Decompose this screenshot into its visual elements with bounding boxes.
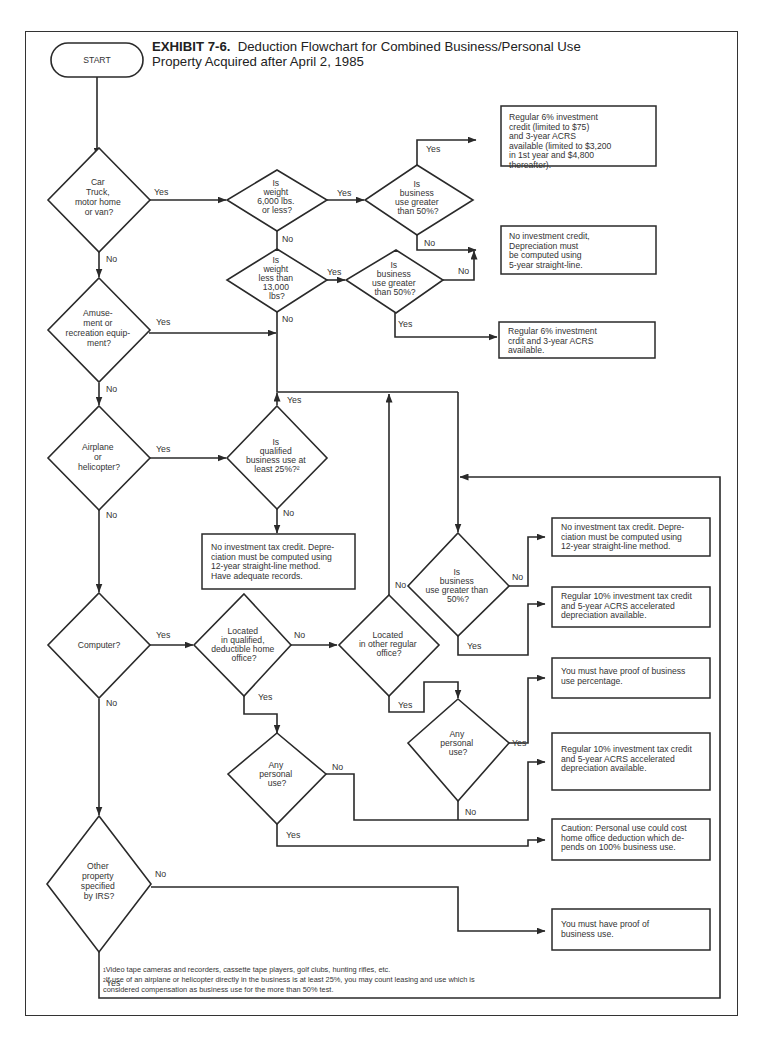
svg-text:Yes: Yes: [327, 267, 342, 277]
outcome-o1: Regular 6% investment credit (limited to…: [501, 106, 656, 170]
svg-text:Yes: Yes: [156, 444, 171, 454]
decision-personal-use-b: Any personal use?: [408, 699, 509, 801]
decision-business-over-50-b: Is business use greater than 50%?: [346, 250, 443, 313]
svg-text:No: No: [465, 807, 476, 817]
svg-text:No: No: [106, 254, 117, 264]
svg-text:Yes: Yes: [154, 187, 169, 197]
svg-text:No: No: [294, 630, 305, 640]
svg-text:Yes: Yes: [287, 395, 302, 405]
decision-computer: Computer?: [48, 593, 150, 698]
svg-text:Yes: Yes: [337, 188, 352, 198]
outcome-o9: Caution: Personal use could cost home of…: [552, 819, 710, 860]
outcome-o4: No investment tax credit. Depre- ciation…: [202, 534, 355, 589]
decision-other-property: Other property specified by IRS?: [47, 816, 151, 952]
svg-text:No: No: [332, 762, 343, 772]
decision-weight-6000: Is weight 6,000 lbs. or less?: [227, 170, 327, 231]
svg-text:No: No: [106, 384, 117, 394]
svg-text:Yes: Yes: [512, 738, 527, 748]
footnote-2-cont: considered compensation as business use …: [103, 985, 475, 995]
start-label: START: [83, 55, 111, 65]
svg-text:Yes: Yes: [426, 144, 441, 154]
decision-car: Car Truck, motor home or van?: [48, 148, 150, 252]
decision-other-office: Located in other regular office?: [339, 595, 439, 696]
svg-text:No: No: [282, 314, 293, 324]
svg-text:No investment tax credit. Depr: No investment tax credit. Depre- ciation…: [561, 522, 687, 551]
outcome-o10: You must have proof of business use.: [552, 909, 710, 950]
outcome-o3: Regular 6% investment crdit and 3-year A…: [499, 322, 655, 358]
svg-text:Caution: Personal use could co: Caution: Personal use could cost home of…: [561, 823, 689, 852]
svg-text:No: No: [106, 698, 117, 708]
svg-text:Yes: Yes: [156, 317, 171, 327]
decision-business-over-50-c: Is business use greater than 50%?: [408, 533, 509, 636]
svg-text:No: No: [395, 580, 406, 590]
decision-qualified-25: Is qualified business use at least 25%?²: [227, 406, 327, 509]
footnote-2: 2If use of an airplane or helicopter dir…: [103, 975, 475, 985]
outcome-o2: No investment credit, Depreciation must …: [501, 226, 656, 274]
svg-text:No: No: [106, 510, 117, 520]
svg-text:No: No: [282, 234, 293, 244]
footnote-1: 1Video tape cameras and recorders, casse…: [103, 965, 475, 975]
outcome-o8: Regular 10% investment tax credit and 5-…: [552, 733, 710, 790]
svg-text:No: No: [283, 508, 294, 518]
footnotes: 1Video tape cameras and recorders, casse…: [103, 965, 475, 995]
decision-airplane: Airplane or helicopter?: [48, 406, 150, 510]
svg-text:Computer?: Computer?: [78, 640, 121, 650]
svg-text:Yes: Yes: [467, 641, 482, 651]
flowchart: START: [0, 0, 762, 1052]
svg-text:Yes: Yes: [156, 630, 171, 640]
svg-text:Yes: Yes: [286, 830, 301, 840]
svg-text:No: No: [155, 869, 166, 879]
outcome-o6: Regular 10% investment tax credit and 5-…: [552, 587, 710, 627]
svg-text:No: No: [512, 572, 523, 582]
svg-text:No: No: [424, 238, 435, 248]
decision-weight-13000: Is weight less than 13,000 lbs?: [227, 249, 327, 312]
outcome-o7: You must have proof of business use perc…: [552, 658, 710, 698]
svg-text:Yes: Yes: [258, 692, 273, 702]
start-terminator: START: [51, 43, 143, 77]
svg-text:No: No: [458, 266, 469, 276]
decision-personal-use-a: Any personal use?: [228, 733, 326, 824]
decision-amusement: Amuse- ment or recreation equip- ment?: [48, 278, 150, 382]
decision-business-over-50-a: Is business use greater than 50%?: [365, 165, 473, 235]
decision-home-office: Located in qualified, deductible home of…: [194, 594, 291, 696]
svg-text:No investment credit, De: No investment credit, Depreciation must …: [509, 231, 592, 270]
svg-text:Yes: Yes: [398, 700, 413, 710]
outcome-o5: No investment tax credit. Depre- ciation…: [552, 518, 710, 556]
svg-text:Yes: Yes: [398, 319, 413, 329]
